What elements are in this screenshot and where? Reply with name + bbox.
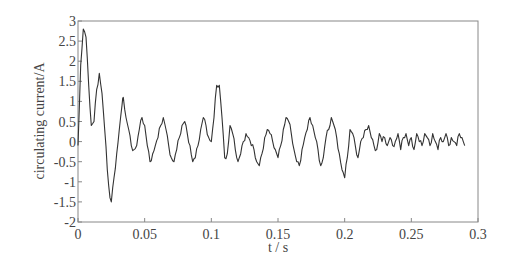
x-tick-label: 0.1 [203,227,221,242]
circulating-current-chart: -2-1.5-1-0.500.511.522.53 00.050.10.150.… [0,0,514,267]
y-tick-label: 3 [69,14,76,29]
plot-area [78,21,478,222]
y-tick-label: -0.5 [54,155,76,170]
x-tick-label: 0.05 [132,227,157,242]
x-tick-label: 0.2 [336,227,354,242]
y-tick-label: 1.5 [59,74,77,89]
x-tick-label: 0.25 [399,227,424,242]
x-tick-label: 0 [75,227,82,242]
x-axis-label: t / s [268,240,288,255]
y-tick-label: 2 [69,54,76,69]
y-tick-label: 0.5 [59,115,77,130]
y-tick-label: 1 [69,94,76,109]
y-tick-label: -1 [64,175,76,190]
y-tick-label: 2.5 [59,34,77,49]
y-tick-label: 0 [69,135,76,150]
x-tick-label: 0.3 [469,227,487,242]
y-tick-label: -1.5 [54,195,76,210]
y-axis-label: circulating current/A [32,62,47,180]
